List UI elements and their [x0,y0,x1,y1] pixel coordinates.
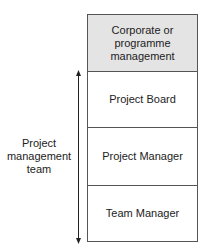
level-project-manager: Project Manager [88,128,197,186]
level-label-line: programme [110,37,174,50]
level-label-line: management [110,50,174,63]
level-label-line: Corporate or [110,24,174,37]
level-project-board: Project Board [88,72,197,128]
level-label: Team Manager [106,207,179,220]
level-corporate-programme-management: Corporate or programme management [88,15,197,72]
level-label: Project Board [109,93,176,106]
level-label: Project Manager [102,150,183,163]
hierarchy-stack: Corporate or programme management Projec… [87,14,198,242]
level-team-manager: Team Manager [88,186,197,241]
side-label-line: management [2,150,76,163]
side-label-line: team [2,163,76,176]
side-label-line: Project [2,137,76,150]
project-management-team-label: Project management team [2,137,76,176]
